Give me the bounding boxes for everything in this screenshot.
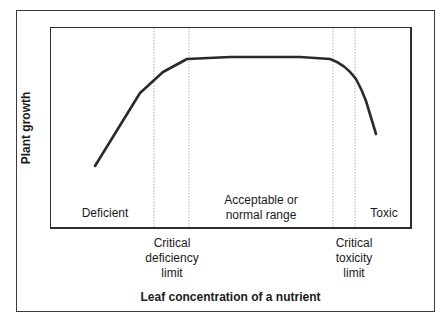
critical-toxicity-limit-label: Critical toxicity limit [322,236,386,281]
limit-label-line: toxicity [322,251,386,266]
limit-label-line: Critical [140,236,204,251]
region-label: Deficient [64,206,146,221]
region-label: normal range [194,208,328,223]
region-label: Toxic [358,206,410,221]
region-acceptable: Acceptable or normal range [194,193,328,223]
critical-deficiency-limit-label: Critical deficiency limit [140,236,204,281]
region-deficient: Deficient [64,206,146,221]
x-axis-label: Leaf concentration of a nutrient [0,290,447,304]
growth-curve-line [95,57,376,166]
limit-label-line: limit [322,266,386,281]
limit-label-line: Critical [322,236,386,251]
region-toxic: Toxic [358,206,410,221]
region-label: Acceptable or [194,193,328,208]
limit-label-line: deficiency [140,251,204,266]
limit-label-line: limit [140,266,204,281]
y-axis-label: Plant growth [19,92,33,165]
